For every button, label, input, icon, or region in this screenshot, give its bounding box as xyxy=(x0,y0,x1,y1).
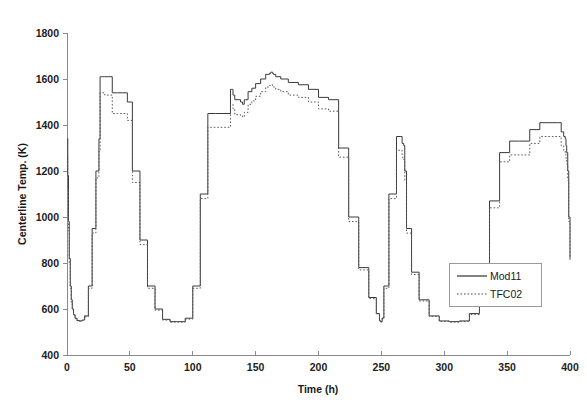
y-tick-label: 1000 xyxy=(36,211,60,223)
y-tick-label: 1200 xyxy=(36,165,60,177)
legend-label-tfc02: TFC02 xyxy=(490,288,522,300)
x-tick-label: 300 xyxy=(435,361,453,373)
x-tick-label: 50 xyxy=(124,361,136,373)
y-tick-label: 1400 xyxy=(36,119,60,131)
x-tick-label: 0 xyxy=(64,361,70,373)
y-tick-label: 1800 xyxy=(36,27,60,39)
x-tick-label: 150 xyxy=(247,361,265,373)
y-tick-label: 800 xyxy=(41,257,59,269)
figure-background xyxy=(0,0,587,420)
temperature-history-chart: 40060080010001200140016001800 0501001502… xyxy=(0,0,587,420)
x-axis-title: Time (h) xyxy=(298,383,339,395)
x-tick-label: 100 xyxy=(184,361,202,373)
y-tick-label: 1600 xyxy=(36,73,60,85)
x-tick-label: 250 xyxy=(373,361,391,373)
legend: Mod11 TFC02 xyxy=(449,263,541,306)
y-tick-label: 600 xyxy=(41,303,59,315)
x-tick-label: 200 xyxy=(310,361,328,373)
x-tick-label: 350 xyxy=(498,361,516,373)
x-tick-label: 400 xyxy=(561,361,579,373)
legend-label-mod11: Mod11 xyxy=(490,270,521,282)
y-tick-label: 400 xyxy=(41,349,59,361)
y-axis-title: Centerline Temp. (K) xyxy=(16,143,28,245)
